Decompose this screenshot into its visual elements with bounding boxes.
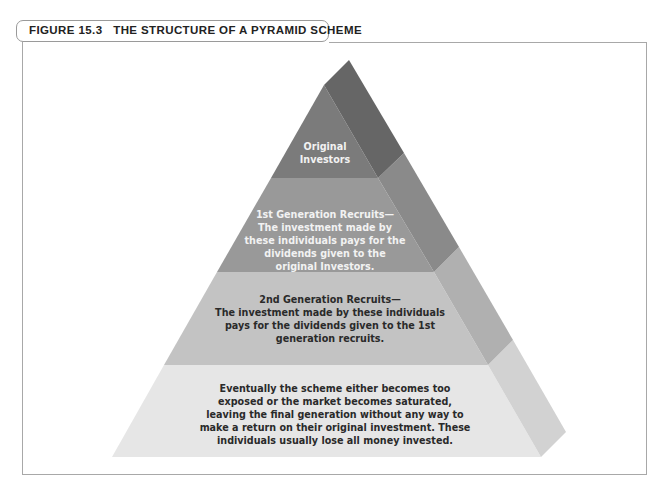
label-line: dividends given to the	[230, 247, 420, 260]
label-line: generation recruits.	[200, 332, 460, 345]
label-line: leaving the final generation without any…	[175, 408, 495, 421]
label-line: Original	[270, 140, 380, 153]
label-line: Eventually the scheme either becomes too	[175, 382, 495, 395]
label-line: The investment made by	[230, 221, 420, 234]
label-first-generation: 1st Generation Recruits— The investment …	[230, 208, 420, 273]
label-line: The investment made by these individuals	[200, 306, 460, 319]
label-original-investors: Original Investors	[270, 140, 380, 166]
label-line: original Investors.	[230, 260, 420, 273]
label-second-generation: 2nd Generation Recruits— The investment …	[200, 293, 460, 345]
label-final-generation: Eventually the scheme either becomes too…	[175, 382, 495, 447]
label-line: 2nd Generation Recruits—	[200, 293, 460, 306]
label-line: make a return on their original investme…	[175, 421, 495, 434]
label-line: pays for the dividends given to the 1st	[200, 319, 460, 332]
label-line: 1st Generation Recruits—	[230, 208, 420, 221]
label-line: these individuals pays for the	[230, 234, 420, 247]
label-line: Investors	[270, 153, 380, 166]
label-line: individuals usually lose all money inves…	[175, 434, 495, 447]
label-line: exposed or the market becomes saturated,	[175, 395, 495, 408]
